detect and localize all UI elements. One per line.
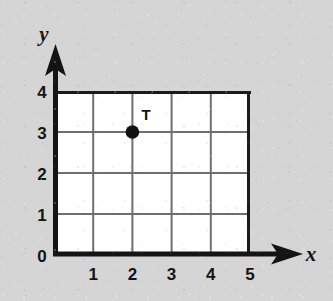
x-tick-label-4: 4	[206, 265, 216, 284]
y-tick-label-0: 0	[37, 247, 46, 266]
point-label: T	[141, 106, 150, 123]
y-tick-label-2: 2	[37, 165, 46, 184]
x-tick-label-2: 2	[128, 265, 137, 284]
coordinate-plane: y x 4 3 2 1 0 1 2 3 4 5 T	[0, 0, 333, 301]
x-axis-label: x	[305, 242, 317, 266]
y-tick-label-1: 1	[37, 206, 46, 225]
y-axis-label: y	[36, 22, 49, 46]
x-tick-label-1: 1	[88, 265, 97, 284]
figure-canvas: y x 4 3 2 1 0 1 2 3 4 5 T	[0, 0, 333, 301]
x-tick-label-3: 3	[167, 265, 176, 284]
x-tick-label-5: 5	[245, 265, 254, 284]
y-tick-label-4: 4	[37, 83, 47, 102]
y-tick-label-3: 3	[37, 124, 46, 143]
point-marker	[126, 125, 140, 139]
